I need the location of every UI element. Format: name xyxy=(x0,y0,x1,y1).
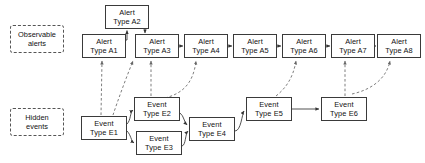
node-alert-a2[interactable]: Alert Type A2 xyxy=(105,5,149,29)
node-event-e1[interactable]: Event Type E1 xyxy=(81,116,127,140)
node-alert-a4-line2: Type A4 xyxy=(192,46,219,55)
node-event-e1-line1: Event xyxy=(94,119,113,128)
node-event-e6[interactable]: Event Type E6 xyxy=(321,97,367,121)
node-alert-a3-line2: Type A3 xyxy=(143,46,170,55)
node-event-e2[interactable]: Event Type E2 xyxy=(134,97,180,121)
node-alert-a8-line1: Alert xyxy=(391,37,407,46)
node-alert-a4-line1: Alert xyxy=(198,37,214,46)
edge-e3-e4 xyxy=(182,131,188,146)
node-alert-a1-line1: Alert xyxy=(96,37,112,46)
node-event-e4-line1: Event xyxy=(202,120,221,129)
node-event-e6-line1: Event xyxy=(334,100,353,109)
node-alert-a6[interactable]: Alert Type A6 xyxy=(282,34,326,58)
edge-e1-a1 xyxy=(101,61,102,115)
node-event-e3-line2: Type E3 xyxy=(145,143,173,152)
node-event-e5-line1: Event xyxy=(259,100,278,109)
edge-a1-a2 xyxy=(126,31,127,41)
node-alert-a7[interactable]: Alert Type A7 xyxy=(331,34,375,58)
edge-e1-e2 xyxy=(127,110,133,124)
node-event-e2-line1: Event xyxy=(147,100,166,109)
node-alert-a3-line1: Alert xyxy=(149,37,165,46)
node-event-e6-line2: Type E6 xyxy=(330,109,358,118)
node-event-e3[interactable]: Event Type E3 xyxy=(136,131,182,155)
node-alert-a5-line1: Alert xyxy=(247,37,263,46)
node-event-e2-line2: Type E2 xyxy=(143,109,171,118)
node-alert-a5-line2: Type A5 xyxy=(241,46,268,55)
node-alert-a1[interactable]: Alert Type A1 xyxy=(82,34,126,58)
node-alert-a7-line2: Type A7 xyxy=(339,46,366,55)
legend-observable-line2: alerts xyxy=(28,39,46,48)
node-event-e5[interactable]: Event Type E5 xyxy=(246,97,292,121)
edge-e4-e5 xyxy=(235,111,244,131)
node-event-e4-line2: Type E4 xyxy=(198,129,226,138)
node-alert-a7-line1: Alert xyxy=(345,37,361,46)
edge-e6-a8 xyxy=(352,61,390,94)
node-alert-a8[interactable]: Alert Type A8 xyxy=(377,34,421,58)
node-alert-a1-line2: Type A1 xyxy=(90,46,117,55)
legend-hidden-line1: Hidden xyxy=(25,113,48,122)
node-alert-a4[interactable]: Alert Type A4 xyxy=(184,34,228,58)
edge-e2-a4 xyxy=(165,61,196,98)
node-event-e4[interactable]: Event Type E4 xyxy=(189,117,235,141)
node-event-e1-line2: Type E1 xyxy=(90,128,118,137)
node-alert-a2-line1: Alert xyxy=(119,8,135,17)
node-alert-a6-line2: Type A6 xyxy=(290,46,317,55)
legend-hidden-line2: events xyxy=(26,122,48,131)
node-alert-a5[interactable]: Alert Type A5 xyxy=(233,34,277,58)
node-alert-a3[interactable]: Alert Type A3 xyxy=(135,34,179,58)
edge-e5-a6 xyxy=(276,61,296,96)
node-event-e3-line1: Event xyxy=(149,134,168,143)
edge-e2-e4 xyxy=(180,113,187,125)
node-event-e5-line2: Type E5 xyxy=(255,109,283,118)
node-alert-a6-line1: Alert xyxy=(296,37,312,46)
edge-e1-a3 xyxy=(113,61,133,115)
node-alert-a8-line2: Type A8 xyxy=(385,46,412,55)
legend-observable-alerts: Observable alerts xyxy=(10,25,64,53)
legend-hidden-events: Hidden events xyxy=(10,108,64,136)
edge-e1-e3 xyxy=(127,131,134,143)
legend-observable-line1: Observable xyxy=(18,30,56,39)
diagram-canvas: Observable alerts Hidden events Alert Ty… xyxy=(0,0,425,163)
node-alert-a2-line2: Type A2 xyxy=(113,17,140,26)
